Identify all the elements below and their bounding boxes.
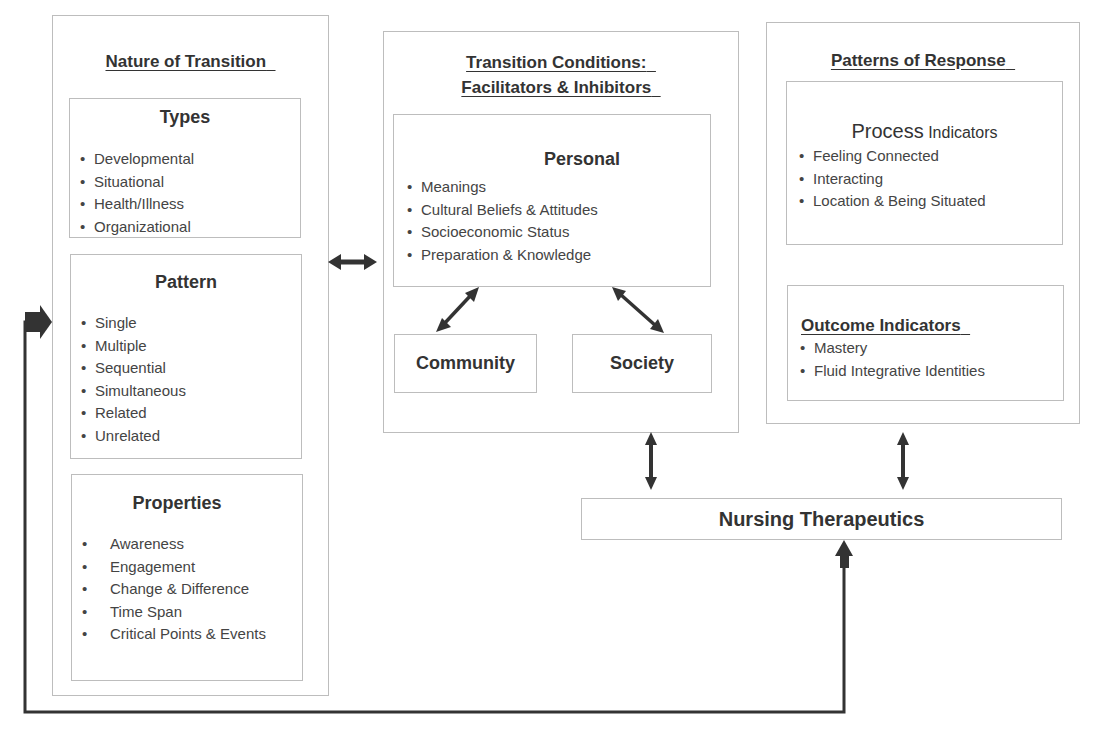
list-item: •Critical Points & Events — [82, 623, 266, 646]
list-item: •Awareness — [82, 533, 266, 556]
list-item: •Preparation & Knowledge — [407, 244, 598, 267]
pattern-box: Pattern •Single •Multiple •Sequential •S… — [70, 254, 302, 459]
types-heading: Types — [70, 107, 300, 128]
list-item: •Cultural Beliefs & Attitudes — [407, 199, 598, 222]
double-arrow-icon — [328, 254, 377, 270]
process-indicators-box: Process Indicators •Feeling Connected •I… — [786, 81, 1063, 245]
list-item: •Multiple — [81, 335, 186, 358]
list-item: •Sequential — [81, 357, 186, 380]
community-box: Community — [394, 334, 537, 393]
process-indicators-heading: Process Indicators — [787, 120, 1062, 143]
double-arrow-icon — [897, 432, 909, 490]
process-indicators-list: •Feeling Connected •Interacting •Locatio… — [799, 145, 986, 213]
nursing-therapeutics-label: Nursing Therapeutics — [582, 499, 1061, 539]
types-box: Types •Developmental •Situational •Healt… — [69, 98, 301, 238]
list-item: •Engagement — [82, 556, 266, 579]
list-item: •Single — [81, 312, 186, 335]
list-item: •Fluid Integrative Identities — [800, 360, 985, 383]
nature-of-transition-title: Nature of Transition — [53, 52, 328, 72]
list-item: •Feeling Connected — [799, 145, 986, 168]
types-list: •Developmental •Situational •Health/Illn… — [80, 148, 194, 238]
personal-box: Personal •Meanings •Cultural Beliefs & A… — [393, 114, 711, 287]
transition-conditions-title: Transition Conditions: Facilitators & In… — [384, 50, 738, 100]
patterns-of-response-title: Patterns of Response — [767, 51, 1079, 71]
outcome-indicators-box: Outcome Indicators •Mastery •Fluid Integ… — [787, 285, 1064, 401]
list-item: •Simultaneous — [81, 380, 186, 403]
society-box: Society — [572, 334, 712, 393]
list-item: •Related — [81, 402, 186, 425]
list-item: •Meanings — [407, 176, 598, 199]
list-item: •Health/Illness — [80, 193, 194, 216]
list-item: •Time Span — [82, 601, 266, 624]
list-item: •Interacting — [799, 168, 986, 191]
pattern-heading: Pattern — [71, 272, 301, 293]
properties-heading: Properties — [52, 493, 302, 514]
list-item: •Organizational — [80, 216, 194, 239]
nature-of-transition-panel: Nature of Transition Types •Developmenta… — [52, 15, 329, 696]
double-arrow-icon — [645, 432, 657, 490]
list-item: •Situational — [80, 171, 194, 194]
society-label: Society — [573, 335, 711, 392]
outcome-indicators-list: •Mastery •Fluid Integrative Identities — [800, 337, 985, 382]
list-item: •Change & Difference — [82, 578, 266, 601]
patterns-of-response-panel: Patterns of Response Process Indicators … — [766, 22, 1080, 424]
personal-list: •Meanings •Cultural Beliefs & Attitudes … — [407, 176, 598, 266]
nursing-therapeutics-box: Nursing Therapeutics — [581, 498, 1062, 540]
list-item: •Location & Being Situated — [799, 190, 986, 213]
properties-box: Properties •Awareness •Engagement •Chang… — [71, 474, 303, 681]
list-item: •Mastery — [800, 337, 985, 360]
community-label: Community — [395, 335, 536, 392]
outcome-indicators-heading: Outcome Indicators — [801, 316, 970, 336]
list-item: •Unrelated — [81, 425, 186, 448]
list-item: •Developmental — [80, 148, 194, 171]
pattern-list: •Single •Multiple •Sequential •Simultane… — [81, 312, 186, 447]
properties-list: •Awareness •Engagement •Change & Differe… — [82, 533, 266, 646]
list-item: •Socioeconomic Status — [407, 221, 598, 244]
personal-heading: Personal — [454, 149, 710, 170]
transition-conditions-panel: Transition Conditions: Facilitators & In… — [383, 31, 739, 433]
